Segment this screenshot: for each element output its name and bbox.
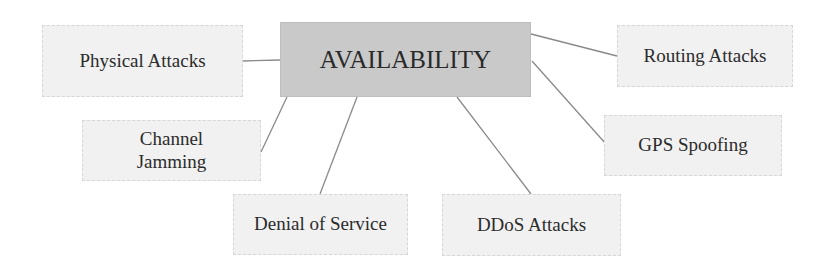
ddos-attacks-label: DDoS Attacks — [477, 214, 586, 237]
edge-gps-spoofing — [532, 61, 606, 144]
gps-spoofing-node: GPS Spoofing — [604, 115, 782, 176]
ddos-attacks-node: DDoS Attacks — [442, 194, 621, 256]
gps-spoofing-label: GPS Spoofing — [638, 134, 747, 157]
routing-attacks-node: Routing Attacks — [617, 25, 793, 87]
edge-routing-attacks — [531, 34, 617, 56]
edge-denial-of-service — [320, 97, 357, 194]
denial-of-service-node: Denial of Service — [233, 194, 408, 255]
edge-channel-jamming — [261, 97, 287, 152]
availability-label: AVAILABILITY — [320, 45, 491, 75]
physical-attacks-label: Physical Attacks — [79, 50, 205, 73]
channel-jamming-node: Channel Jamming — [82, 120, 261, 181]
edge-physical-attacks — [243, 60, 280, 61]
routing-attacks-label: Routing Attacks — [644, 45, 767, 68]
availability-node: AVAILABILITY — [280, 22, 531, 97]
edge-ddos-attacks — [457, 97, 531, 194]
channel-jamming-label-line2: Jamming — [137, 151, 207, 174]
channel-jamming-label-line1: Channel — [140, 128, 203, 151]
physical-attacks-node: Physical Attacks — [42, 25, 243, 97]
denial-of-service-label: Denial of Service — [254, 213, 387, 236]
